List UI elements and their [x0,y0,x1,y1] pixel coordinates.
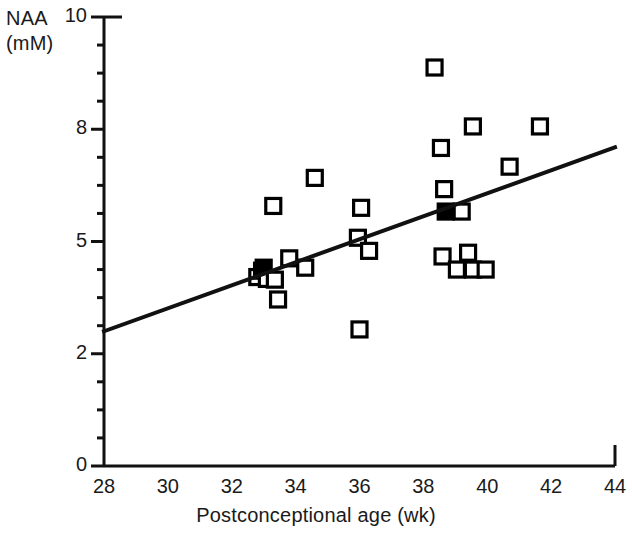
regression-trendline [104,147,615,331]
data-point-marker [362,243,377,258]
scatter-chart [0,0,632,541]
x-tick-label: 44 [590,475,632,498]
data-point-marker [266,198,281,213]
x-tick-label: 30 [143,475,193,498]
x-tick-label: 32 [207,475,257,498]
x-tick-label: 34 [271,475,321,498]
data-point-marker [465,119,480,134]
y-axis-ticks [91,17,104,466]
data-point-marker [449,262,464,277]
data-point-marker [271,292,286,307]
data-point-marker [532,119,547,134]
y-axis-title-line2: (mM) [6,31,53,56]
data-point-marker [433,140,448,155]
y-tick-label: 2 [41,341,87,364]
data-point-marker [478,262,493,277]
x-tick-label: 40 [462,475,512,498]
x-tick-label: 42 [526,475,576,498]
data-point-marker [502,159,517,174]
data-point-marker [354,200,369,215]
data-point-marker [267,272,282,287]
y-tick-label: 5 [41,229,87,252]
data-point-marker [427,60,442,75]
y-tick-label: 0 [41,453,87,476]
y-tick-label: 8 [41,116,87,139]
x-tick-label: 36 [335,475,385,498]
x-axis-title: Postconceptional age (wk) [0,504,632,527]
data-point-marker [307,170,322,185]
x-tick-label: 38 [398,475,448,498]
x-tick-label: 28 [79,475,129,498]
data-point-layer [250,60,548,337]
y-tick-label: 10 [41,4,87,27]
data-point-marker [437,182,452,197]
data-point-marker [352,322,367,337]
data-point-marker [435,249,450,264]
data-point-marker [461,245,476,260]
